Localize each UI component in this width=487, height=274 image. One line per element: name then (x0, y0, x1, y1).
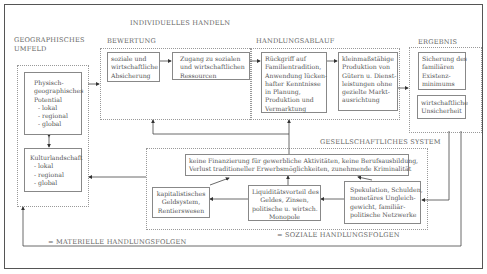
box-line: hafter Kenntnisse (265, 80, 323, 88)
box-line: Zugang zu sozialen (180, 55, 246, 63)
box-liquiditaet: Liquiditätsvorteil des Geldes, Zinsen, p… (248, 185, 321, 221)
box-kleinmassstaebig: kleinmaßstäbige Produktion von Gütern u.… (338, 52, 398, 111)
box-line: wirtschaftliche (111, 63, 156, 71)
box-line: kapitalistisches (156, 190, 206, 198)
box-line: Absicherung (111, 72, 156, 80)
box-line: Spekulation, Schulden, (350, 186, 417, 194)
box-line: minimums (422, 80, 462, 88)
materielle-handlungsfolgen-label: = MATERIELLE HANDLUNGSFOLGEN (48, 238, 187, 246)
box-line: geographisches (34, 87, 78, 95)
box-line: wirtschaftliche (421, 99, 462, 107)
box-line: Unsicherheit (421, 107, 462, 115)
box-spekulation: Spekulation, Schulden, monetäres Ungleic… (344, 181, 421, 224)
box-soziale-absicherung: soziale und wirtschaftliche Absicherung (107, 52, 160, 82)
box-line: in Planung, (265, 88, 323, 96)
box-line: Rentierswesen (156, 207, 206, 215)
box-rueckgriff: Rückgriff auf Familientradition, Anwendu… (261, 52, 327, 113)
box-line: - lokal (34, 104, 78, 112)
box-line: Geldsystem, (156, 198, 206, 206)
box-line: Kulturlandschaft (30, 154, 78, 162)
box-line: Sicherung des (422, 55, 462, 63)
box-line: politische u. wirtsch. (252, 205, 317, 213)
box-keine-finanzierung: keine Finanzierung für gewerbliche Aktiv… (185, 154, 409, 176)
box-physisch: Physisch- geographisches Potential - lok… (24, 72, 82, 135)
box-line: Anwendung lücken- (265, 72, 323, 80)
box-line: Vermarktung (265, 105, 323, 113)
box-line: familiären (422, 63, 462, 71)
box-line: Physisch- (34, 79, 78, 87)
box-kapitalistisch: kapitalistisches Geldsystem, Rentierswes… (152, 187, 210, 218)
box-line: Produktion von (342, 63, 394, 71)
box-line: Geldes, Zinsen, (252, 196, 317, 204)
box-line: Existenz- (422, 72, 462, 80)
box-line: leistungen ohne (342, 80, 394, 88)
box-kulturlandschaft: Kulturlandschaft - lokal - regional - gl… (24, 148, 82, 192)
box-line: keine Finanzierung für gewerbliche Aktiv… (189, 157, 405, 165)
box-line: - global (34, 120, 78, 128)
box-line: Monopole (252, 213, 317, 221)
box-line: - global (30, 179, 78, 187)
box-line: und wirtschaftlichen (180, 63, 246, 71)
box-line: ausrichtung (342, 96, 394, 104)
box-line: gewicht, familiär- (350, 203, 417, 211)
soziale-handlungsfolgen-label: = SOZIALE HANDLUNGSFOLGEN (277, 231, 400, 239)
box-line: - regional (30, 171, 78, 179)
box-line: kleinmaßstäbige (342, 55, 394, 63)
box-line: Rückgriff auf (265, 55, 323, 63)
box-line: Verlust traditioneller Erwerbsmöglichkei… (189, 165, 405, 173)
box-zugang-ressourcen: Zugang zu sozialen und wirtschaftlichen … (172, 52, 250, 80)
box-line: monetäres Ungleich- (350, 194, 417, 202)
box-unsicherheit: wirtschaftliche Unsicherheit (417, 95, 466, 119)
box-line: Ressourcen (180, 72, 246, 80)
box-line: Potential (34, 96, 78, 104)
box-line: gezielte Markt- (342, 88, 394, 96)
box-line: Liquiditätsvorteil des (252, 188, 317, 196)
box-line: - regional (34, 112, 78, 120)
box-line: - lokal (30, 162, 78, 170)
box-line: Produktion und (265, 96, 323, 104)
box-line: Familientradition, (265, 63, 323, 71)
box-line: Gütern u. Dienst- (342, 72, 394, 80)
connector-lines (0, 0, 487, 274)
box-line: soziale und (111, 55, 156, 63)
box-line: politische Netzwerke (350, 211, 417, 219)
box-sicherung: Sicherung des familiären Existenz- minim… (418, 52, 466, 90)
